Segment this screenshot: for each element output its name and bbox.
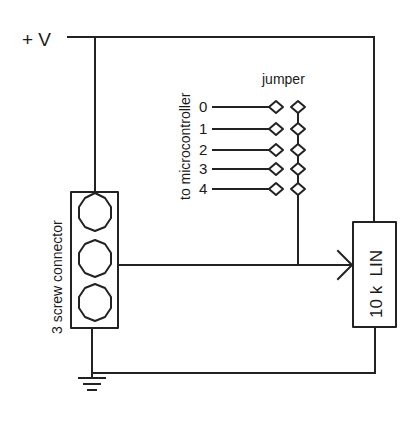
pin-labels: 0 1 2 3 4 xyxy=(199,98,207,197)
microcontroller-label: to microcontroller xyxy=(177,92,193,200)
pin-label-3: 3 xyxy=(199,160,207,177)
circuit-diagram: + V jumper 0 1 2 3 4 to microcontroller … xyxy=(0,0,418,427)
jumper-pins-left xyxy=(269,101,283,195)
screw-terminal-2-icon xyxy=(79,240,111,277)
pin-label-2: 2 xyxy=(199,141,207,158)
ground-icon xyxy=(79,378,105,390)
supply-label: + V xyxy=(22,29,51,50)
pin-label-4: 4 xyxy=(199,180,207,197)
connector-label: 3 screw connector xyxy=(49,220,65,334)
pin-label-0: 0 xyxy=(199,98,207,115)
potentiometer-label: 10 k LIN xyxy=(367,250,386,318)
pin-label-1: 1 xyxy=(199,120,207,137)
pin-lines xyxy=(213,107,269,189)
screw-terminal-1-icon xyxy=(79,193,111,231)
screw-terminal-3-icon xyxy=(79,284,111,321)
jumper-label: jumper xyxy=(261,71,305,87)
